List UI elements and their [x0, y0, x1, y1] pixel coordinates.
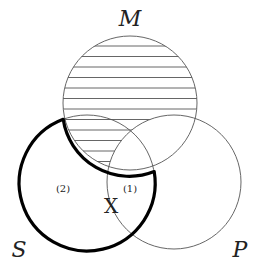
label-m: M [118, 6, 142, 31]
region-label-1: (1) [123, 183, 137, 194]
venn-diagram: M S P (2) (1) X [0, 0, 260, 275]
hatched-region [60, 46, 200, 162]
label-s: S [11, 237, 26, 262]
region-label-2: (2) [56, 183, 70, 194]
venn-svg: M S P (2) (1) X [0, 0, 260, 275]
circle-p [107, 115, 241, 249]
label-p: P [232, 237, 249, 262]
x-marker: X [104, 194, 119, 218]
